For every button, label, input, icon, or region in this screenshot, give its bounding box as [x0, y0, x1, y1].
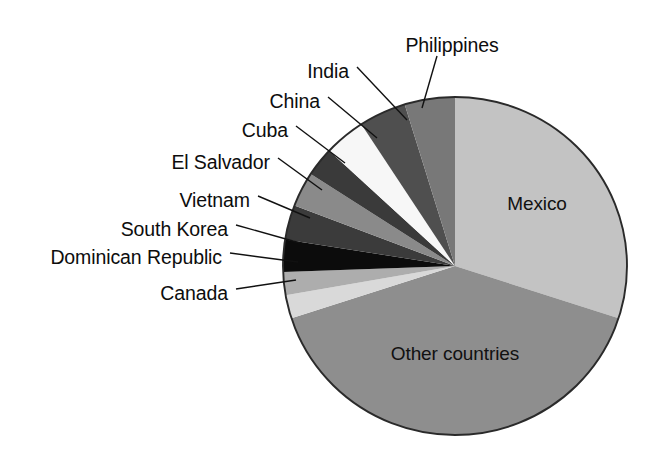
slice-label-philippines: Philippines: [405, 34, 499, 56]
slice-label-mexico: Mexico: [507, 193, 567, 214]
slice-label-vietnam: Vietnam: [180, 189, 250, 211]
slice-label-india: India: [307, 60, 349, 82]
slice-label-south-korea: South Korea: [121, 218, 229, 240]
slice-label-cuba: Cuba: [242, 119, 288, 141]
slice-label-other-countries: Other countries: [391, 343, 519, 364]
pie-chart-canvas: MexicoOther countriesCanadaDominican Rep…: [0, 0, 671, 462]
slice-label-china: China: [270, 90, 321, 112]
slice-label-canada: Canada: [160, 282, 228, 304]
slice-label-dominican-republic: Dominican Republic: [50, 246, 222, 268]
pie-chart-figure: MexicoOther countriesCanadaDominican Rep…: [0, 0, 671, 462]
pie-slice-group: [283, 97, 627, 435]
slice-label-el-salvador: El Salvador: [171, 151, 270, 173]
